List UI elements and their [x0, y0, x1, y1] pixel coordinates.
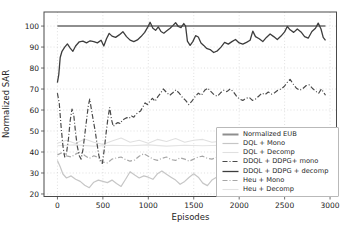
legend-item: DQL + Decomp — [222, 148, 334, 157]
legend-item: Heu + Mono — [222, 176, 334, 185]
legend-line-swatch — [222, 177, 239, 184]
chart-legend: Normalized EUBDQL + MonoDQL + DecompDDQL… — [216, 127, 339, 197]
y-tick-label: 40 — [29, 148, 39, 157]
x-tick-label: 2000 — [230, 201, 249, 210]
legend-item: Heu + Decomp — [222, 185, 334, 194]
x-tick-label: 1500 — [184, 201, 203, 210]
legend-label: DDQL + DDPG + decomp — [243, 167, 328, 176]
x-axis-label: Episodes — [44, 212, 337, 222]
series-line — [57, 22, 325, 82]
legend-label: Normalized EUB — [243, 130, 297, 139]
y-tick-label: 50 — [29, 127, 39, 136]
legend-label: DQL + Mono — [243, 139, 285, 148]
legend-item: DQL + Mono — [222, 139, 334, 148]
legend-line-swatch — [222, 158, 239, 165]
legend-line-swatch — [222, 149, 239, 156]
x-tick-label: 0 — [55, 201, 60, 210]
y-tick-label: 70 — [29, 85, 39, 94]
legend-label: Heu + Decomp — [243, 185, 294, 194]
y-tick-label: 60 — [29, 106, 39, 115]
y-axis-label: Normalized SAR — [1, 49, 11, 159]
legend-label: Heu + Mono — [243, 176, 284, 185]
y-tick-label: 80 — [29, 64, 39, 73]
x-tick-label: 500 — [96, 201, 111, 210]
legend-line-swatch — [222, 131, 239, 138]
legend-label: DDQL + DDPG+ mono — [243, 157, 318, 166]
x-tick-label: 1000 — [139, 201, 158, 210]
y-tick-label: 90 — [29, 43, 39, 52]
legend-line-swatch — [222, 140, 239, 147]
legend-line-swatch — [222, 168, 239, 175]
legend-item: Normalized EUB — [222, 130, 334, 139]
x-tick-label: 2500 — [275, 201, 294, 210]
legend-item: DDQL + DDPG + decomp — [222, 167, 334, 176]
y-tick-label: 20 — [29, 190, 39, 199]
y-tick-label: 30 — [29, 169, 39, 178]
legend-line-swatch — [222, 186, 239, 193]
legend-label: DQL + Decomp — [243, 148, 295, 157]
x-tick-label: 3000 — [321, 201, 340, 210]
legend-item: DDQL + DDPG+ mono — [222, 157, 334, 166]
sar-training-chart: 0500100015002000250030002030405060708090… — [0, 0, 343, 230]
y-tick-label: 100 — [25, 22, 40, 31]
